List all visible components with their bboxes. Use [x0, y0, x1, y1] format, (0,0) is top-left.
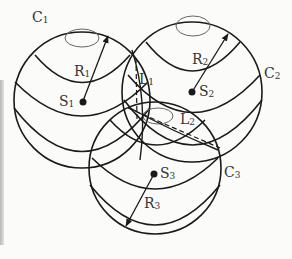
S3-label: S3 — [160, 166, 175, 181]
S1-center-point — [80, 99, 87, 106]
C3-label: C3 — [224, 165, 240, 180]
sphere-1 — [14, 29, 150, 168]
S3-center-point — [151, 171, 158, 178]
S2-center-point — [189, 89, 196, 96]
C2-label: C2 — [264, 66, 280, 81]
C1-label: C1 — [32, 10, 48, 25]
sphere-2-pole-cap — [176, 16, 210, 36]
L1-label: L1 — [139, 72, 154, 87]
S2-label: S2 — [199, 84, 214, 99]
sphere-1-latitude-lower — [14, 108, 150, 152]
R1-label: R1 — [74, 64, 90, 79]
spheres-diagram — [0, 0, 292, 259]
L2-label: L2 — [180, 112, 195, 127]
S1-label: S1 — [59, 94, 74, 109]
R3-label: R3 — [144, 196, 160, 211]
R2-label: R2 — [192, 52, 208, 67]
